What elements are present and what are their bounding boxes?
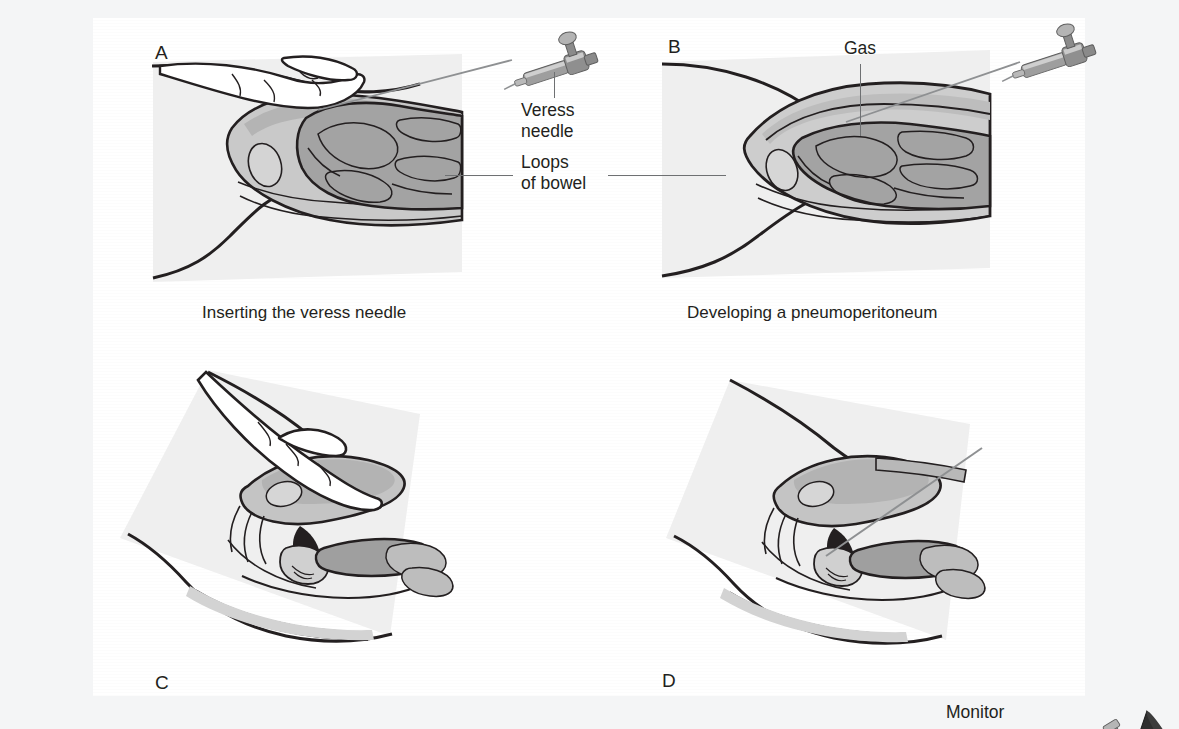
panel-a: A xyxy=(0,0,620,340)
annotation-loops-of-bowel: Loops of bowel xyxy=(521,152,586,195)
panel-c: C xyxy=(0,330,620,729)
gas-leader xyxy=(860,64,861,136)
figure-root: A xyxy=(0,0,1179,729)
panel-a-caption: Inserting the veress needle xyxy=(202,303,406,323)
annotation-veress-needle: Veress needle xyxy=(521,100,575,143)
annotation-monitor: Monitor xyxy=(946,702,1004,723)
panel-b-caption: Developing a pneumoperitoneum xyxy=(687,303,937,323)
annotation-gas: Gas xyxy=(844,38,876,59)
panel-d: D xyxy=(590,330,1179,729)
loops-of-bowel-leader-left xyxy=(445,175,513,176)
veress-needle-instrument-b xyxy=(998,14,1118,104)
veress-needle-leader-a xyxy=(554,72,555,98)
loops-of-bowel-leader-right xyxy=(608,175,726,176)
panel-b: B xyxy=(590,0,1179,340)
